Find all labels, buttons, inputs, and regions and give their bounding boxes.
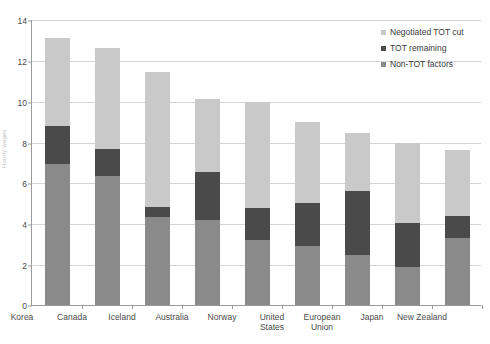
y-tick-label: 0 [22,301,27,311]
y-tick-label: 10 [18,98,27,108]
bar-segment[interactable] [345,255,370,305]
bar-segment[interactable] [45,38,70,126]
y-axis-title: Hourly wages [1,129,7,168]
bar-segment[interactable] [195,99,220,173]
bar-segment[interactable] [45,126,70,164]
legend-swatch [381,30,386,35]
bar-group[interactable] [95,48,120,305]
bar-group[interactable] [295,122,320,305]
stacked-bar-chart: Hourly wages 02468101214 KoreaCanadaIcel… [0,0,490,344]
bar-segment[interactable] [445,150,470,216]
bar-segment[interactable] [245,208,270,240]
x-tick-mark [182,305,183,309]
bar-segment[interactable] [245,102,270,208]
legend-item[interactable]: TOT remaining [381,43,464,53]
y-tick-mark [28,306,32,307]
bar-segment[interactable] [395,143,420,224]
bar-segment[interactable] [245,240,270,305]
bar-group[interactable] [245,102,270,305]
y-tick-label: 4 [22,220,27,230]
bar-segment[interactable] [145,217,170,305]
bar-group[interactable] [195,99,220,305]
bar-group[interactable] [345,133,370,305]
x-tick-mark [282,305,283,309]
legend-swatch [381,46,386,51]
bar-segment[interactable] [395,267,420,305]
bar-segment[interactable] [45,164,70,305]
x-tick-mark [82,305,83,309]
legend-label: TOT remaining [390,43,446,53]
y-tick-label: 8 [22,139,27,149]
bar-group[interactable] [45,38,70,305]
bar-segment[interactable] [95,176,120,305]
y-tick-label: 6 [22,179,27,189]
y-tick-label: 14 [18,16,27,26]
x-tick-mark [382,305,383,309]
bar-segment[interactable] [145,72,170,207]
bar-segment[interactable] [95,149,120,177]
bar-group[interactable] [445,150,470,305]
bar-segment[interactable] [95,48,120,149]
bar-segment[interactable] [195,220,220,305]
legend-label: Negotiated TOT cut [390,27,464,37]
legend-swatch [381,62,386,67]
x-tick-mark [232,305,233,309]
bar-group[interactable] [145,72,170,305]
bar-segment[interactable] [295,246,320,305]
bar-segment[interactable] [445,238,470,305]
bar-segment[interactable] [195,172,220,220]
legend-item[interactable]: Negotiated TOT cut [381,27,464,37]
x-tick-mark [332,305,333,309]
x-tick-mark [432,305,433,309]
bar-segment[interactable] [345,133,370,190]
bar-segment[interactable] [445,216,470,237]
y-tick-label: 2 [22,261,27,271]
bar-group[interactable] [395,143,420,305]
legend-label: Non-TOT factors [390,59,453,69]
bar-segment[interactable] [395,223,420,267]
chart-legend: Negotiated TOT cutTOT remainingNon-TOT f… [381,27,464,69]
bar-segment[interactable] [295,203,320,246]
bar-segment[interactable] [145,207,170,217]
y-tick-label: 12 [18,57,27,67]
legend-item[interactable]: Non-TOT factors [381,59,464,69]
bar-segment[interactable] [345,191,370,255]
x-tick-mark [482,305,483,309]
x-tick-mark [132,305,133,309]
bar-segment[interactable] [295,122,320,203]
x-tick-label: New Zealand [387,312,457,322]
